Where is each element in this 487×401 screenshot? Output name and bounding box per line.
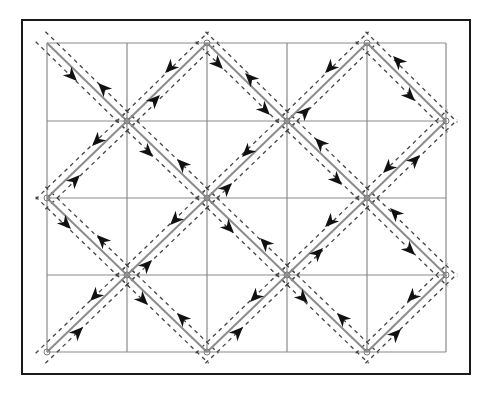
dashed-boundary-line: [285, 197, 378, 286]
dashed-boundary-line: [116, 274, 209, 363]
diagonal-edge: [207, 198, 287, 275]
dashed-boundary-line: [205, 187, 298, 276]
arrow-up-right-icon: [69, 323, 87, 341]
diagonal-edge: [287, 121, 367, 198]
dashed-boundary-line: [116, 120, 209, 209]
dashed-boundary-line: [45, 274, 138, 363]
dashed-boundary-line: [356, 197, 448, 287]
dashed-boundary-line: [36, 42, 129, 133]
diagonal-edge: [47, 275, 127, 352]
frame-rect: [22, 20, 470, 374]
arrow-up-left-icon: [173, 155, 191, 173]
dashed-boundary-line: [356, 110, 448, 200]
dashed-boundary-line: [125, 42, 218, 133]
arrow-up-right-icon: [229, 323, 247, 341]
arrow-down-right-icon: [139, 143, 157, 161]
dashed-boundary-line: [116, 32, 209, 123]
dashed-boundary-line: [36, 264, 129, 353]
diagonal-edge: [367, 275, 446, 352]
diagonal-edge: [287, 43, 367, 121]
diagonal-edge: [287, 275, 367, 352]
arrow-up-right-icon: [406, 151, 424, 169]
arrow-up-left-icon: [173, 309, 191, 327]
arrow-down-right-icon: [220, 219, 238, 237]
dashed-boundary-line: [276, 187, 369, 276]
dashed-boundary-line: [276, 120, 369, 209]
dashed-boundary-line: [45, 120, 138, 209]
dashed-boundary-line: [365, 274, 457, 364]
arrow-up-left-icon: [93, 231, 111, 249]
arrow-down-right-icon: [63, 67, 81, 85]
diagonal-edge: [367, 121, 446, 198]
dashed-boundary-line: [125, 264, 218, 353]
arrow-up-right-icon: [218, 179, 236, 197]
dashed-boundary-line: [285, 42, 378, 133]
diagonal-edge: [287, 198, 367, 275]
dashed-boundary-line: [45, 187, 138, 276]
dashed-boundary-line: [366, 32, 458, 123]
dashed-boundary-line: [45, 32, 138, 123]
dashed-boundary-line: [285, 264, 378, 353]
dashed-boundary-line: [365, 120, 457, 210]
diagonal-edge: [207, 43, 287, 121]
arrow-down-left-icon: [88, 132, 106, 150]
diagonal-edge: [127, 43, 207, 121]
dashed-boundary-line: [365, 187, 457, 277]
dashed-boundary-line: [125, 197, 218, 286]
diagonal-edge: [207, 275, 287, 352]
arrow-down-left-icon: [161, 59, 179, 77]
diagonal-edge: [127, 198, 207, 275]
dashed-boundary-line: [125, 110, 218, 199]
dashed-boundary-line: [36, 110, 129, 199]
diagonal-edge: [207, 121, 287, 198]
dashed-boundary-line: [276, 32, 369, 123]
dashed-boundary-line: [356, 264, 448, 354]
dashed-boundary-line: [196, 42, 289, 133]
dashed-boundary-line: [285, 110, 378, 199]
outer-frame: [22, 20, 470, 374]
dashed-boundary-line: [196, 264, 289, 353]
dashed-boundary-line: [196, 197, 289, 286]
dashed-boundary-line: [196, 110, 289, 199]
dashed-boundary-line: [36, 197, 129, 286]
diagonal-edge: [47, 121, 127, 198]
dashed-boundary-line: [205, 120, 298, 209]
dashed-boundary-line: [116, 187, 209, 276]
arrow-down-left-icon: [321, 59, 339, 77]
arrow-down-right-icon: [294, 289, 312, 307]
lattice-diagram: [0, 0, 487, 401]
diagonal-edge: [367, 198, 446, 275]
dashed-boundary-line: [356, 42, 448, 133]
diagonal-edge: [47, 198, 127, 275]
arrow-up-right-icon: [296, 103, 314, 121]
arrow-up-right-icon: [309, 244, 327, 262]
diagonal-edge: [367, 43, 446, 121]
arrow-down-right-icon: [57, 215, 75, 233]
arrow-down-left-icon: [403, 288, 421, 306]
arrow-up-right-icon: [138, 256, 156, 274]
dashed-boundary-line: [205, 274, 298, 363]
dashed-boundary-line: [276, 274, 369, 363]
diagonal-edge: [47, 43, 127, 121]
arrow-up-left-icon: [333, 309, 351, 327]
arrow-down-right-icon: [134, 291, 152, 309]
diagonal-edge: [127, 121, 207, 198]
diagonal-edge: [127, 275, 207, 352]
arrow-down-right-icon: [328, 171, 346, 189]
